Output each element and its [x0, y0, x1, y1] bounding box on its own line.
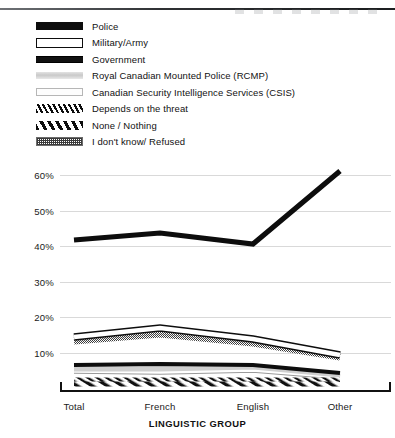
plot-svg: [0, 0, 395, 438]
gridlines: [60, 176, 391, 354]
x-tick-total: Total: [35, 401, 113, 412]
series-police: [74, 171, 340, 244]
x-tick-english: English: [214, 401, 292, 412]
x-tick-other: Other: [301, 401, 379, 412]
line-chart: 60% 50% 40% 30% 20% 10%: [0, 0, 395, 438]
chart-page: Police Military/Army Government Royal Ca…: [0, 0, 395, 438]
x-axis-title: LINGUISTIC GROUP: [0, 418, 395, 429]
x-tick-french: French: [121, 401, 199, 412]
